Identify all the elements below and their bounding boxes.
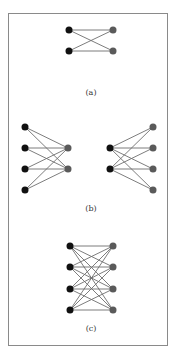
panel-b-sub1-edge	[110, 169, 153, 190]
panel-b-sub0-left-node	[22, 187, 29, 194]
panel-b-sub1-right-node	[150, 187, 157, 194]
panel-c-label: (c)	[86, 324, 97, 333]
panel-b-sub1-right-node	[150, 166, 157, 173]
panel-b-sub1-right-node	[150, 124, 157, 131]
panel-a-label: (a)	[85, 88, 96, 97]
panel-c-left-node	[67, 286, 74, 293]
panel-a-right-node	[110, 27, 117, 34]
labels-layer: (a) (b) (c)	[85, 88, 96, 333]
panel-b-sub0-edge	[25, 169, 68, 190]
panel-c-left-node	[67, 264, 74, 271]
panel-b-sub0-right-node	[65, 145, 72, 152]
panel-b-sub0-right-node	[65, 166, 72, 173]
panel-b-label: (b)	[85, 204, 96, 213]
panel-b-sub0-left-node	[22, 124, 29, 131]
panel-c-right-node	[110, 286, 117, 293]
panel-a-left-node	[66, 48, 73, 55]
panel-b-sub1-edge	[110, 127, 153, 148]
panel-b-sub1-left-node	[107, 166, 114, 173]
panel-b-sub0-edge	[25, 127, 68, 148]
panel-c-right-node	[110, 264, 117, 271]
panel-b-sub0-left-node	[22, 145, 29, 152]
panel-a-right-node	[110, 48, 117, 55]
edges-layer	[25, 30, 153, 310]
panel-b-sub0-left-node	[22, 166, 29, 173]
panel-c-right-node	[110, 243, 117, 250]
panel-b-sub1-left-node	[107, 145, 114, 152]
bipartite-graphs-figure: (a) (b) (c)	[0, 0, 174, 359]
panel-c-left-node	[67, 243, 74, 250]
panel-c-left-node	[67, 307, 74, 314]
panel-b-sub1-right-node	[150, 145, 157, 152]
panel-a-left-node	[66, 27, 73, 34]
panel-c-right-node	[110, 307, 117, 314]
